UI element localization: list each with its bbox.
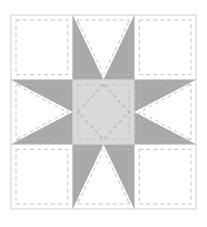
- center-square-patch: [73, 80, 135, 145]
- quilt-block-canvas: Eight-Pointed Star Quilt Block: [0, 0, 207, 227]
- quilt-block-diagram: Eight-Pointed Star Quilt Block: [0, 0, 207, 227]
